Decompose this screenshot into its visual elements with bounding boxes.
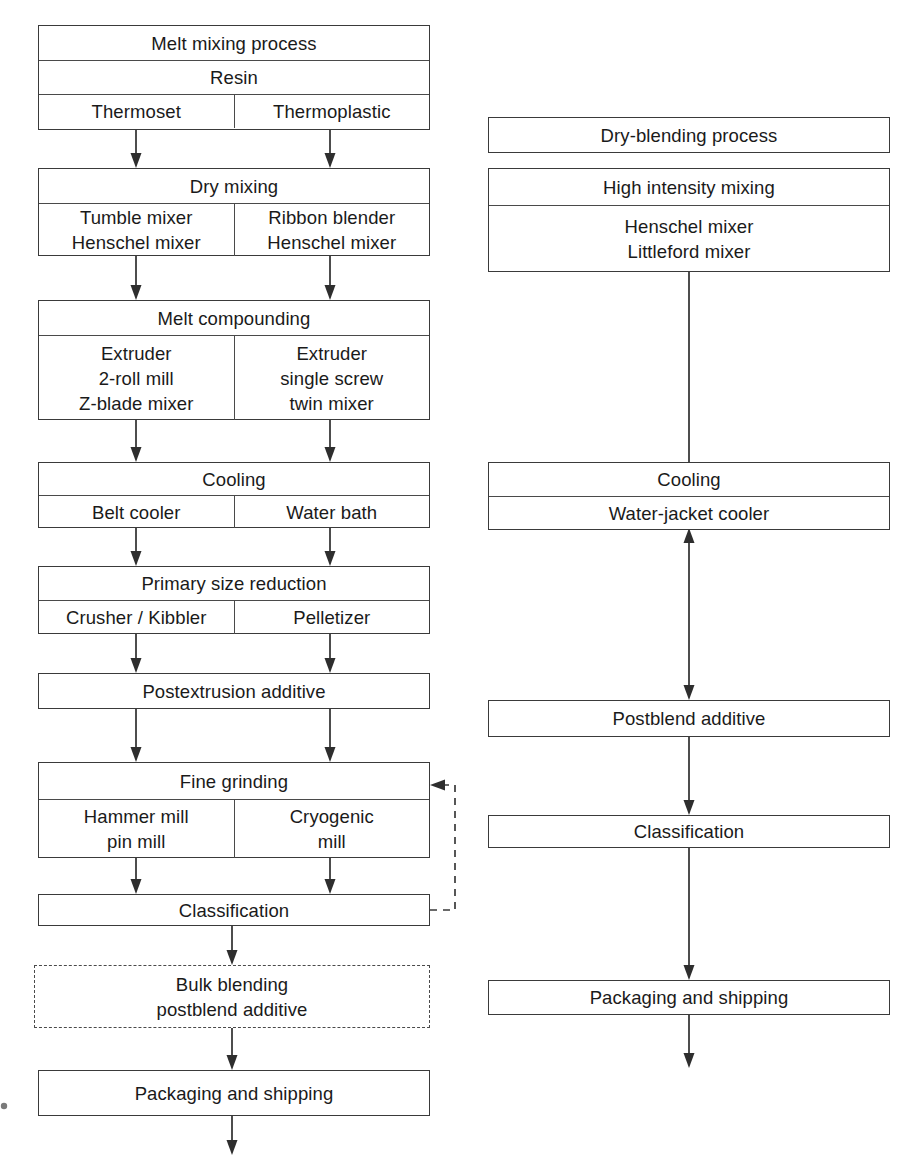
box-packaging-left[interactable]: Packaging and shipping: [38, 1070, 430, 1116]
arrowhead-primary-right: [325, 551, 336, 566]
arrowhead-fine-left: [131, 747, 142, 762]
row-classification-left: Classification: [39, 895, 429, 925]
label-high-intensity-mixing-equipment: Henschel mixer Littleford mixer: [489, 206, 889, 271]
label-fine-grinding: Fine grinding: [39, 763, 429, 799]
row-cooling-equipment-left: Belt cooler Water bath: [39, 495, 429, 528]
label-classification-left: Classification: [39, 895, 429, 925]
arrowhead-cooling-right: [325, 447, 336, 462]
label-classification-right: Classification: [489, 816, 889, 847]
label-belt-cooler: Belt cooler: [39, 496, 235, 528]
row-primary-size-reduction-equipment: Crusher / Kibbler Pelletizer: [39, 600, 429, 634]
row-primary-size-reduction-header: Primary size reduction: [39, 567, 429, 600]
box-dry-blending-process[interactable]: Dry-blending process: [488, 117, 890, 153]
box-bulk-blending[interactable]: Bulk blending postblend additive: [34, 965, 430, 1028]
box-cooling-right[interactable]: Cooling Water-jacket cooler: [488, 462, 890, 530]
arrowhead-recycle-loop: [430, 780, 445, 791]
arrowhead-packaging-left: [227, 1055, 238, 1070]
arrowhead-packaging-right: [684, 965, 695, 980]
label-high-intensity-mixing: High intensity mixing: [489, 169, 889, 205]
arrowhead-primary-left: [131, 551, 142, 566]
arrowhead-packaging-out-right: [684, 1053, 695, 1068]
box-fine-grinding[interactable]: Fine grinding Hammer mill pin mill Cryog…: [38, 762, 430, 858]
label-hammer-pin-mill: Hammer mill pin mill: [39, 800, 235, 858]
label-thermoset: Thermoset: [39, 95, 235, 128]
label-thermoplastic: Thermoplastic: [235, 95, 430, 128]
row-high-intensity-mixing-header: High intensity mixing: [489, 169, 889, 205]
arrowhead-postextrusion-left: [131, 658, 142, 673]
label-cryogenic-mill: Cryogenic mill: [235, 800, 430, 858]
row-cooling-equipment-right: Water-jacket cooler: [489, 496, 889, 530]
label-postblend-additive: Postblend additive: [489, 701, 889, 736]
label-pelletizer: Pelletizer: [235, 601, 430, 634]
label-dry-mixing: Dry mixing: [39, 169, 429, 203]
arrowhead-classification-right: [325, 879, 336, 894]
row-postextrusion-additive: Postextrusion additive: [39, 674, 429, 708]
row-packaging-left: Packaging and shipping: [39, 1071, 429, 1115]
label-bulk-blending: Bulk blending postblend additive: [35, 966, 429, 1027]
label-dry-mixing-thermoplastic-equipment: Ribbon blender Henschel mixer: [235, 204, 430, 256]
row-dry-mixing-header: Dry mixing: [39, 169, 429, 203]
flowchart-canvas: Melt mixing process Resin Thermoset Ther…: [0, 0, 914, 1174]
box-high-intensity-mixing[interactable]: High intensity mixing Henschel mixer Lit…: [488, 168, 890, 272]
row-cooling-header-left: Cooling: [39, 463, 429, 495]
label-dry-blending-process: Dry-blending process: [489, 118, 889, 152]
arrowhead-packaging-out-left: [227, 1140, 238, 1155]
row-postblend-additive: Postblend additive: [489, 701, 889, 736]
row-resin-types: Thermoset Thermoplastic: [39, 94, 429, 128]
label-melt-compounding: Melt compounding: [39, 301, 429, 335]
row-cooling-header-right: Cooling: [489, 463, 889, 496]
label-dry-mixing-thermoset-equipment: Tumble mixer Henschel mixer: [39, 204, 235, 256]
label-packaging-left: Packaging and shipping: [39, 1071, 429, 1115]
row-high-intensity-mixing-equipment: Henschel mixer Littleford mixer: [489, 205, 889, 271]
label-cooling-left: Cooling: [39, 463, 429, 495]
scan-artifact: [1, 1103, 7, 1109]
box-postblend-additive[interactable]: Postblend additive: [488, 700, 890, 737]
label-water-jacket-cooler: Water-jacket cooler: [489, 497, 889, 530]
row-melt-mixing-header: Melt mixing process: [39, 26, 429, 60]
arrowhead-fine-right: [325, 747, 336, 762]
arrowhead-bulk-blending: [227, 950, 238, 965]
label-melt-compounding-thermoplastic-equipment: Extruder single screw twin mixer: [235, 336, 430, 420]
box-melt-compounding[interactable]: Melt compounding Extruder 2-roll mill Z-…: [38, 300, 430, 420]
row-fine-grinding-header: Fine grinding: [39, 763, 429, 799]
arrowhead-classification-right-col: [684, 800, 695, 815]
arrowhead-cooling-left: [131, 447, 142, 462]
arrowhead-classification-left: [131, 879, 142, 894]
label-crusher-kibbler: Crusher / Kibbler: [39, 601, 235, 634]
arrowhead-postextrusion-right: [325, 658, 336, 673]
row-dry-blending-process: Dry-blending process: [489, 118, 889, 152]
label-cooling-right: Cooling: [489, 463, 889, 496]
arrowhead-drymixing-left: [131, 153, 142, 168]
box-classification-right[interactable]: Classification: [488, 815, 890, 848]
wire-recycle-loop: [430, 785, 455, 910]
arrowhead-drymixing-right: [325, 153, 336, 168]
row-bulk-blending: Bulk blending postblend additive: [35, 966, 429, 1027]
arrowhead-melt-right: [325, 285, 336, 300]
arrowhead-melt-left: [131, 285, 142, 300]
label-primary-size-reduction: Primary size reduction: [39, 567, 429, 600]
row-dry-mixing-equipment: Tumble mixer Henschel mixer Ribbon blend…: [39, 203, 429, 256]
box-classification-left[interactable]: Classification: [38, 894, 430, 926]
row-melt-compounding-header: Melt compounding: [39, 301, 429, 335]
box-melt-mixing-process[interactable]: Melt mixing process Resin Thermoset Ther…: [38, 25, 430, 130]
arrowhead-postblend-down: [684, 685, 695, 700]
box-cooling-left[interactable]: Cooling Belt cooler Water bath: [38, 462, 430, 528]
row-packaging-right: Packaging and shipping: [489, 981, 889, 1014]
label-melt-compounding-thermoset-equipment: Extruder 2-roll mill Z-blade mixer: [39, 336, 235, 420]
row-resin-header: Resin: [39, 60, 429, 94]
label-packaging-right: Packaging and shipping: [489, 981, 889, 1014]
box-dry-mixing[interactable]: Dry mixing Tumble mixer Henschel mixer R…: [38, 168, 430, 256]
label-postextrusion-additive: Postextrusion additive: [39, 674, 429, 708]
arrowhead-cooling-up: [684, 528, 695, 543]
box-primary-size-reduction[interactable]: Primary size reduction Crusher / Kibbler…: [38, 566, 430, 634]
label-resin: Resin: [39, 61, 429, 94]
box-postextrusion-additive[interactable]: Postextrusion additive: [38, 673, 430, 709]
label-melt-mixing-process: Melt mixing process: [39, 26, 429, 60]
box-packaging-right[interactable]: Packaging and shipping: [488, 980, 890, 1015]
row-fine-grinding-equipment: Hammer mill pin mill Cryogenic mill: [39, 799, 429, 858]
row-classification-right: Classification: [489, 816, 889, 847]
label-water-bath: Water bath: [235, 496, 430, 528]
row-melt-compounding-equipment: Extruder 2-roll mill Z-blade mixer Extru…: [39, 335, 429, 420]
